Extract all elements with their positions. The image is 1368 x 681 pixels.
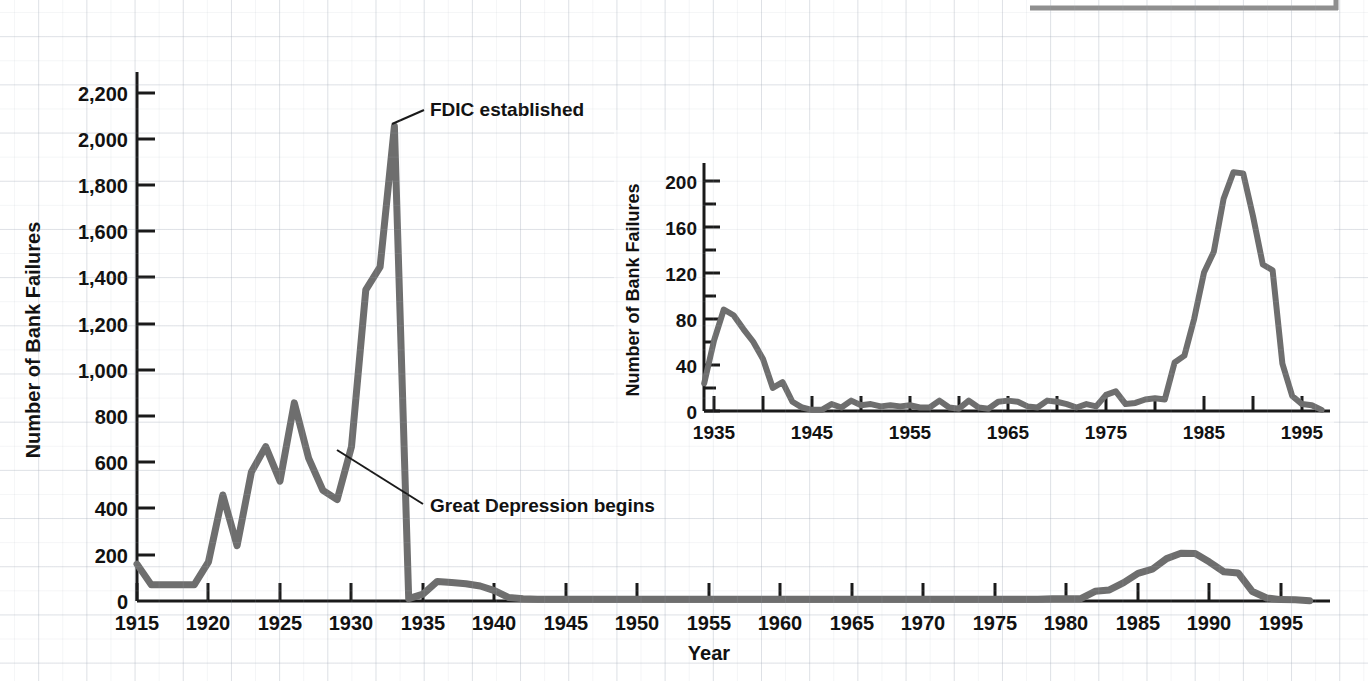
x-tick-label: 1950 [615,612,660,634]
inset-x-tick-label: 1975 [1085,422,1128,443]
annotation-fdic-established: FDIC established [430,99,584,120]
inset-y-tick-label: 80 [676,310,697,331]
x-tick-label: 1920 [186,612,231,634]
x-tick-label: 1995 [1259,612,1304,634]
x-tick-label: 1960 [758,612,803,634]
inset-x-tick-label: 1945 [791,422,834,443]
fdic-leader-line [392,110,424,124]
chart-page: 2,200 2,000 1,800 1,600 1,400 1,200 1,00… [0,0,1368,681]
y-tick-label: 400 [95,498,128,520]
x-tick-label: 1970 [901,612,946,634]
main-annotations: FDIC established Great Depression begins [337,99,655,516]
x-tick-label: 1965 [830,612,875,634]
inset-x-tick-label: 1995 [1281,422,1324,443]
y-tick-label: 1,200 [78,314,128,336]
main-y-tick-labels: 2,200 2,000 1,800 1,600 1,400 1,200 1,00… [78,83,128,613]
x-tick-label: 1945 [544,612,589,634]
x-tick-label: 1935 [401,612,446,634]
x-tick-label: 1940 [472,612,517,634]
x-tick-label: 1925 [258,612,303,634]
scan-frame-artifact [1030,0,1338,10]
inset-x-tick-label: 1935 [693,422,736,443]
inset-chart: 200 160 120 80 40 0 Number of Bank Failu… [614,130,1334,470]
y-tick-label: 1,600 [78,221,128,243]
y-tick-label: 2,200 [78,83,128,105]
y-tick-label: 0 [117,591,128,613]
depression-leader-line [337,450,423,504]
inset-x-tick-label: 1965 [987,422,1030,443]
x-tick-label: 1975 [973,612,1018,634]
x-tick-label: 1980 [1044,612,1089,634]
inset-background [614,130,1334,470]
inset-y-tick-label: 0 [686,402,697,423]
x-tick-label: 1955 [687,612,732,634]
x-tick-label: 1985 [1116,612,1161,634]
main-y-ticks [137,93,155,555]
annotation-great-depression: Great Depression begins [430,495,655,516]
y-tick-label: 1,400 [78,267,128,289]
main-y-axis-title: Number of Bank Failures [22,222,44,459]
y-tick-label: 600 [95,452,128,474]
x-tick-label: 1930 [329,612,374,634]
y-tick-label: 1,800 [78,175,128,197]
inset-y-tick-label: 40 [676,356,697,377]
inset-x-tick-label: 1985 [1183,422,1226,443]
inset-y-tick-label: 120 [665,264,697,285]
inset-x-tick-label: 1955 [889,422,932,443]
y-tick-label: 200 [95,545,128,567]
inset-y-axis-title: Number of Bank Failures [623,183,643,396]
y-tick-label: 800 [95,406,128,428]
main-x-tick-labels: 1915 1920 1925 1930 1935 1940 1945 1950 … [115,612,1304,634]
bank-failures-figure: 2,200 2,000 1,800 1,600 1,400 1,200 1,00… [0,0,1368,681]
y-tick-label: 2,000 [78,129,128,151]
y-tick-label: 1,000 [78,360,128,382]
inset-y-tick-label: 160 [665,218,697,239]
main-x-axis-title: Year [688,642,730,664]
x-tick-label: 1990 [1187,612,1232,634]
x-tick-label: 1915 [115,612,160,634]
inset-y-tick-label: 200 [665,172,697,193]
